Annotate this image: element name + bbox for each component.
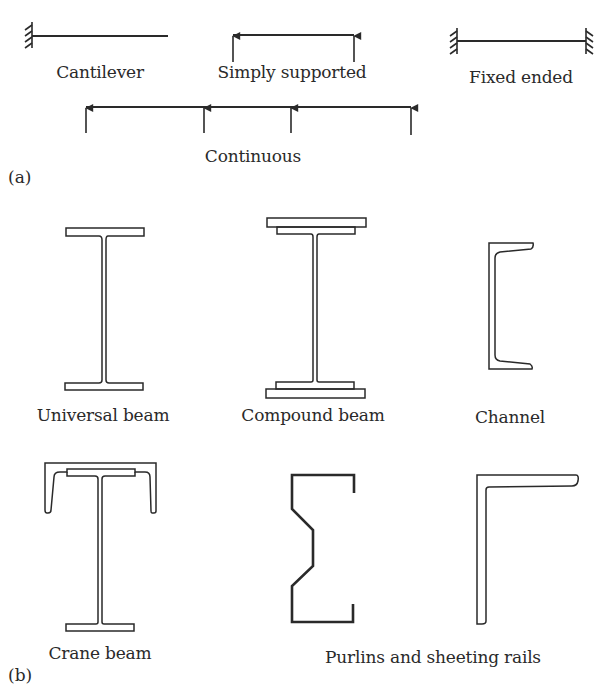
channel-label: Channel — [475, 407, 545, 427]
beam-types-figure: Cantilever Simply supported Fixed ended … — [0, 0, 603, 697]
compound-beam-section-icon — [266, 218, 366, 398]
fixed-ended-label: Fixed ended — [469, 67, 573, 87]
angle-purlin-section-icon — [477, 475, 578, 624]
crane-beam-label: Crane beam — [49, 643, 152, 663]
part-b-tag: (b) — [8, 665, 32, 685]
diagram-drawing — [0, 0, 603, 697]
fixed-ended-beam-icon — [450, 28, 593, 54]
universal-beam-label: Universal beam — [37, 405, 170, 425]
continuous-beam-icon — [86, 107, 411, 135]
sigma-purlin-section-icon — [292, 475, 354, 622]
part-a-tag: (a) — [8, 167, 31, 187]
cantilever-label: Cantilever — [56, 62, 144, 82]
channel-section-icon — [489, 243, 533, 369]
universal-beam-section-icon — [65, 228, 144, 390]
compound-beam-label: Compound beam — [241, 405, 384, 425]
purlins-label: Purlins and sheeting rails — [325, 647, 541, 667]
simply-supported-label: Simply supported — [218, 62, 367, 82]
simply-supported-beam-icon — [233, 35, 354, 62]
continuous-label: Continuous — [205, 146, 301, 166]
cantilever-beam-icon — [25, 22, 168, 48]
crane-beam-section-icon — [45, 463, 156, 631]
